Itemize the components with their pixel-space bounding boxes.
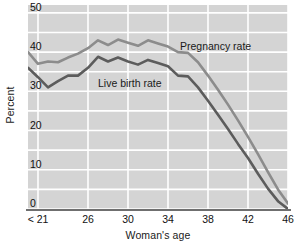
chart-container: Percent 01020304050 Pregnancy rateLive b… [0, 0, 298, 248]
x-tick-label: 30 [106, 214, 150, 225]
x-tick-label: 26 [66, 214, 110, 225]
y-tick-label: 20 [30, 120, 42, 131]
x-tick-label: 34 [146, 214, 190, 225]
y-tick-label: 0 [30, 198, 36, 209]
x-axis-baseline [26, 209, 291, 211]
y-tick-label: 40 [30, 41, 42, 52]
plot-area: 01020304050 Pregnancy rateLive birth rat… [28, 5, 288, 209]
gridlines-group [28, 5, 288, 209]
x-tick-label: 42 [226, 214, 270, 225]
chart-svg [28, 5, 288, 209]
y-tick-label: 10 [30, 159, 42, 170]
x-axis-label-text: Woman's age [28, 229, 288, 241]
series-label: Live birth rate [98, 78, 162, 89]
y-tick-label: 50 [30, 2, 42, 13]
y-axis-label-text: Percent [4, 87, 16, 124]
y-axis-label: Percent [0, 0, 20, 210]
x-tick-label: < 21 [16, 214, 60, 225]
series-label: Pregnancy rate [180, 41, 251, 52]
series-paths-group [28, 40, 288, 209]
y-tick-label: 30 [30, 80, 42, 91]
x-tick-label: 38 [186, 214, 230, 225]
x-tick-label: 46 [266, 214, 298, 225]
